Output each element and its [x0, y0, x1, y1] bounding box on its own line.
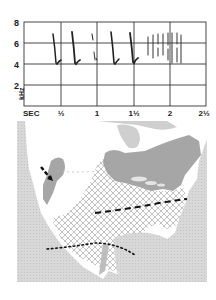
y-axis-label: kHz: [18, 87, 25, 100]
x-tick-1: 1: [95, 109, 100, 118]
x-axis-label: SEC: [23, 109, 40, 118]
song-notes: [53, 32, 138, 64]
y-tick-6: 6: [14, 39, 19, 49]
song-trill: [148, 33, 181, 63]
y-tick-4: 4: [14, 60, 19, 70]
y-axis-labels: 8 6 4 2 kHz: [14, 18, 25, 100]
x-tick-2-half: 2½: [198, 109, 209, 118]
spectrogram-chart: 8 6 4 2 kHz SEC ½ 1 1½ 2 2½: [0, 0, 216, 120]
y-tick-8: 8: [14, 18, 19, 28]
x-tick-2: 2: [168, 109, 173, 118]
x-axis-labels: SEC ½ 1 1½ 2 2½: [23, 109, 210, 118]
x-tick-1-half: 1½: [128, 109, 139, 118]
range-map: [17, 121, 207, 282]
x-tick-half: ½: [58, 109, 65, 118]
